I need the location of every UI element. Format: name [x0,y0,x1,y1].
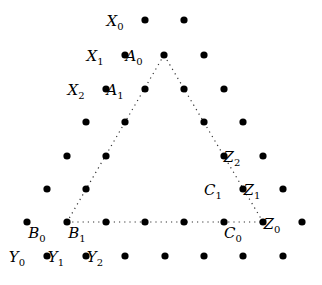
point-label: Y1 [48,248,64,268]
lattice-point [279,252,286,259]
point-label: C1 [204,181,222,201]
lattice-point [200,51,207,58]
lattice-point [239,118,246,125]
lattice-point [82,185,89,192]
lattice-point [141,218,148,225]
lattice-point [121,252,128,259]
lattice-point [43,185,50,192]
point-label: A0 [123,47,142,67]
point-label: B0 [27,224,45,244]
point-label: X2 [66,81,84,101]
lattice-point [160,51,167,58]
point-label: Z0 [263,215,281,235]
point-label: C0 [224,224,242,244]
lattice-diagram: X0X1A0X2A1Z2C1Z1B0B1C0Z0Y0Y1Y2 [0,0,322,285]
lattice-point [180,85,187,92]
lattice-point [239,252,246,259]
point-label: X0 [105,12,123,32]
point-label: Y2 [87,248,103,268]
lattice-point [141,85,148,92]
lattice-point [102,218,109,225]
lattice-point [82,118,89,125]
point-label: A1 [104,81,123,101]
lattice-point [220,85,227,92]
diagram-svg: X0X1A0X2A1Z2C1Z1B0B1C0Z0Y0Y1Y2 [0,0,322,285]
lattice-point [121,118,128,125]
lattice-point [200,118,207,125]
lattice-point [63,152,70,159]
lattice-point [180,218,187,225]
lattice-point [180,16,187,23]
lattice-point [200,252,207,259]
lattice-point [298,218,305,225]
point-label: Z1 [243,181,261,201]
lattice-point [259,152,266,159]
lattice-point [161,252,168,259]
point-label: X1 [85,47,103,67]
lattice-point [141,16,148,23]
point-label: B1 [67,224,85,244]
point-label: Y0 [9,248,25,268]
lattice-point [102,152,109,159]
lattice-point [279,185,286,192]
point-label: Z2 [223,148,241,168]
